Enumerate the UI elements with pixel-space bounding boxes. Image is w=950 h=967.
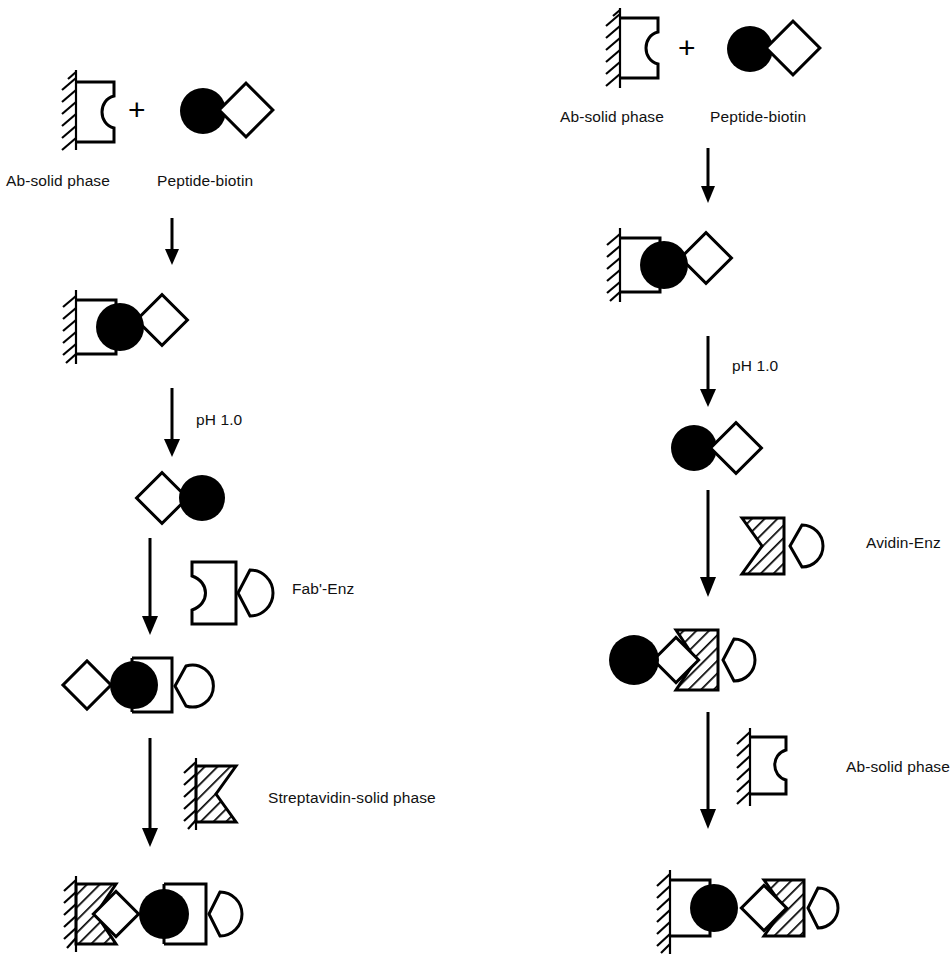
left-label-ab-solid-phase: Ab-solid phase: [6, 172, 110, 190]
scheme-left-column: + Ab-solid phase Peptide-biotin: [0, 0, 460, 967]
left-reagent-streptavidin-solid-phase-symbol: [180, 752, 260, 832]
left-arrow-1: [160, 218, 184, 266]
left-complex-biotin-peptide-fab: [62, 648, 252, 724]
right-complex-final: [652, 866, 912, 958]
left-complex-biotin-peptide: [130, 468, 235, 528]
right-arrow-1: [696, 148, 720, 204]
right-label-ph-1: pH 1.0: [732, 357, 778, 375]
right-peptide-biotin-symbol: [722, 18, 827, 80]
right-complex-peptide-biotin: [666, 418, 771, 478]
left-label-fab-enz: Fab'-Enz: [292, 580, 354, 598]
scheme-right-column: + Ab-solid phase Peptide-biotin: [460, 0, 924, 967]
left-arrow-4: [138, 738, 162, 848]
right-arrow-4: [696, 712, 720, 830]
left-peptide-biotin-symbol: [175, 80, 280, 142]
left-arrow-3: [138, 538, 162, 636]
right-complex-peptide-biotin-avidin: [604, 620, 814, 700]
left-plus-operator: +: [128, 95, 146, 125]
right-complex-ab-peptide-biotin: [602, 226, 742, 304]
right-reagent-avidin-enz-symbol: [732, 512, 852, 584]
left-reagent-fab-enz-symbol: [178, 556, 288, 628]
left-label-ph-1: pH 1.0: [196, 411, 242, 429]
left-arrow-2: [160, 388, 184, 458]
right-plus-operator: +: [678, 33, 696, 63]
right-label-peptide-biotin: Peptide-biotin: [710, 108, 806, 126]
right-label-ab-solid-phase: Ab-solid phase: [560, 108, 664, 126]
left-complex-final: [60, 872, 310, 956]
right-label-avidin-enz: Avidin-Enz: [866, 534, 941, 552]
left-label-peptide-biotin: Peptide-biotin: [157, 172, 253, 190]
right-reagent-ab-solid-phase-symbol: [732, 724, 824, 810]
right-label-ab-solid-phase-reagent: Ab-solid phase: [846, 758, 950, 776]
right-arrow-3: [696, 490, 720, 598]
right-arrow-2: [696, 336, 720, 408]
left-label-streptavidin-solid-phase: Streptavidin-solid phase: [268, 789, 436, 807]
left-complex-ab-peptide-biotin: [58, 288, 198, 366]
